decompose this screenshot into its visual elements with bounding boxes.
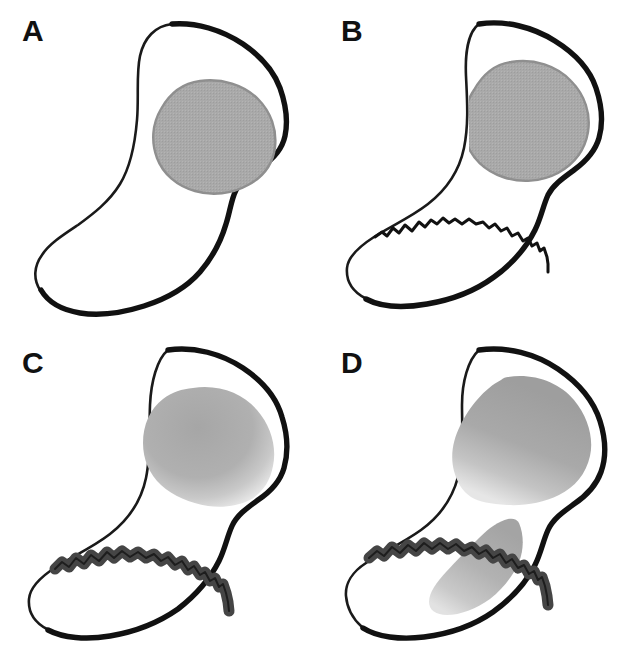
panel-b: B bbox=[319, 0, 637, 331]
panel-a-illustration bbox=[0, 0, 318, 331]
figure-root: A B bbox=[0, 0, 637, 663]
panel-d-illustration bbox=[319, 332, 637, 663]
panel-c-illustration bbox=[0, 332, 318, 663]
lesion-gray-b bbox=[464, 61, 589, 181]
lesion-gray-a bbox=[153, 80, 275, 193]
panel-c: C bbox=[0, 332, 318, 663]
panel-b-illustration bbox=[319, 0, 637, 331]
panel-a: A bbox=[0, 0, 318, 331]
panel-d: D bbox=[319, 332, 637, 663]
